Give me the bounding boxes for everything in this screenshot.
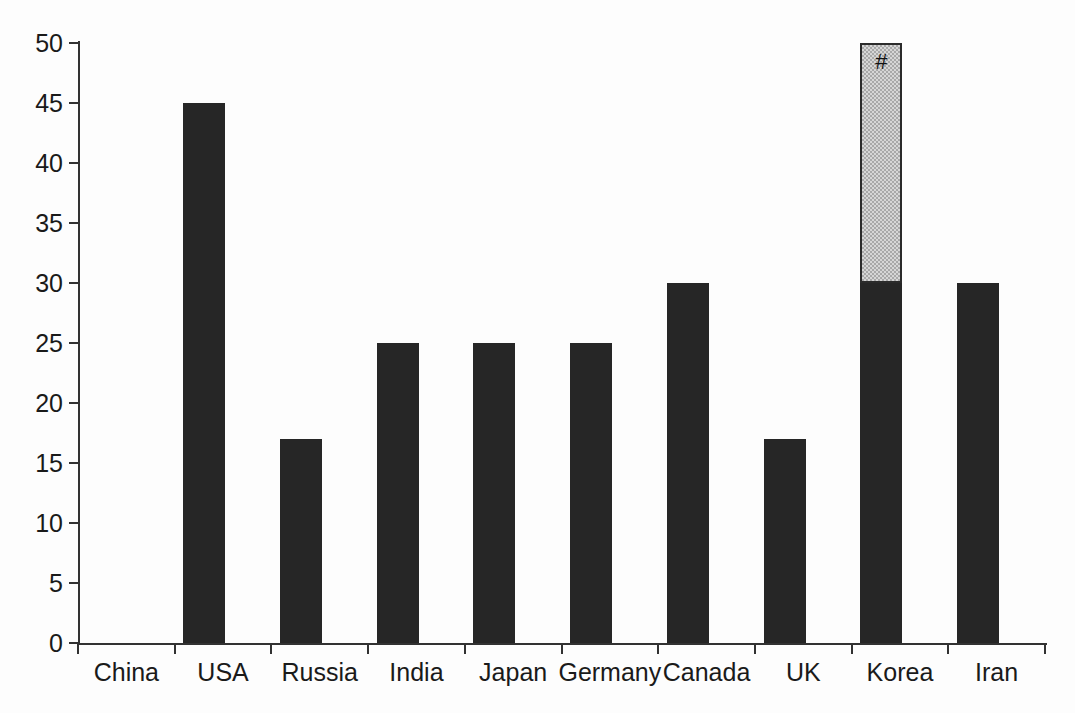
x-axis-label-iran: Iran xyxy=(975,660,1018,685)
y-axis-tick-label: 50 xyxy=(35,31,63,56)
x-axis-tick xyxy=(561,643,563,654)
y-axis-tick-label: 25 xyxy=(35,331,63,356)
bar-segment-hatched: # xyxy=(860,43,902,283)
x-axis-tick xyxy=(270,643,272,654)
bar-japan xyxy=(570,343,612,643)
bar-germany xyxy=(667,283,709,643)
x-axis-label-japan: Japan xyxy=(479,660,547,685)
y-axis-tick xyxy=(69,162,78,164)
x-axis-label-germany: Germany xyxy=(558,660,661,685)
x-axis-label-canada: Canada xyxy=(663,660,751,685)
x-axis-line xyxy=(78,643,1047,645)
y-axis-tick xyxy=(69,342,78,344)
x-axis-tick xyxy=(367,643,369,654)
bar-india xyxy=(473,343,515,643)
bar-segment-solid xyxy=(377,343,419,643)
bar-segment-solid xyxy=(280,439,322,643)
bar-segment-solid xyxy=(860,283,902,643)
bar-segment-solid xyxy=(667,283,709,643)
bar-canada xyxy=(764,439,806,643)
x-axis-label-usa: USA xyxy=(197,660,248,685)
y-axis-tick xyxy=(69,402,78,404)
x-axis-label-china: China xyxy=(94,660,159,685)
y-axis-tick-label: 20 xyxy=(35,391,63,416)
bar-hash-annotation: # xyxy=(862,51,900,73)
x-axis-label-uk: UK xyxy=(786,660,821,685)
y-axis-tick-label: 0 xyxy=(49,631,63,656)
bar-russia xyxy=(377,343,419,643)
x-axis-label-korea: Korea xyxy=(867,660,934,685)
y-axis-tick-label: 40 xyxy=(35,151,63,176)
x-axis-tick xyxy=(657,643,659,654)
bar-korea xyxy=(957,283,999,643)
y-axis-tick-label: 30 xyxy=(35,271,63,296)
x-axis-tick xyxy=(851,643,853,654)
y-axis-tick xyxy=(69,222,78,224)
bar-china xyxy=(183,103,225,643)
bar-segment-solid xyxy=(957,283,999,643)
y-axis-tick-label: 15 xyxy=(35,451,63,476)
y-axis-tick xyxy=(69,642,78,644)
y-axis-tick xyxy=(69,282,78,284)
y-axis-tick xyxy=(69,462,78,464)
x-axis-tick xyxy=(464,643,466,654)
bar-chart: 05101520253035404550 # ChinaUSARussiaInd… xyxy=(0,0,1075,713)
x-axis-tick xyxy=(754,643,756,654)
bar-usa xyxy=(280,439,322,643)
plot-area: # xyxy=(78,43,1045,643)
y-axis-tick-label: 10 xyxy=(35,511,63,536)
y-axis-tick xyxy=(69,522,78,524)
y-axis-tick-label: 45 xyxy=(35,91,63,116)
y-axis-tick xyxy=(69,582,78,584)
bar-uk: # xyxy=(860,43,902,643)
x-axis-tick xyxy=(947,643,949,654)
x-axis-tick xyxy=(174,643,176,654)
y-axis-tick xyxy=(69,42,78,44)
y-axis-tick-label: 5 xyxy=(49,571,63,596)
x-axis-tick xyxy=(1044,643,1046,654)
x-axis-label-russia: Russia xyxy=(282,660,358,685)
y-axis-labels: 05101520253035404550 xyxy=(0,0,63,713)
bar-segment-solid xyxy=(570,343,612,643)
x-axis-label-india: India xyxy=(389,660,443,685)
x-axis-tick xyxy=(77,643,79,654)
bar-segment-solid xyxy=(764,439,806,643)
y-axis-tick-label: 35 xyxy=(35,211,63,236)
bar-segment-solid xyxy=(473,343,515,643)
y-axis-tick xyxy=(69,102,78,104)
bar-segment-solid xyxy=(183,103,225,643)
